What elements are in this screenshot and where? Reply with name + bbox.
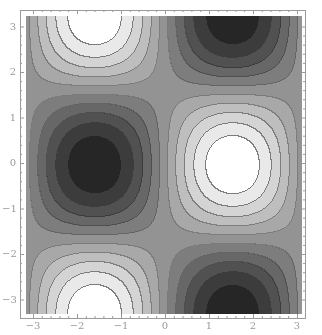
y-tick-label: 2 (2, 67, 16, 77)
y-tick-label: 0 (2, 158, 16, 168)
y-tick-label: 1 (2, 113, 16, 123)
x-tick-label: 1 (206, 321, 212, 331)
x-tick-label: −3 (26, 321, 41, 331)
x-tick-label: −2 (70, 321, 85, 331)
y-tick-label: −3 (2, 295, 16, 305)
y-tick-label: 3 (2, 22, 16, 32)
y-tick-label: −1 (2, 204, 16, 214)
x-tick-label: 0 (162, 321, 168, 331)
x-tick-label: 3 (294, 321, 300, 331)
axis-ticks (0, 0, 322, 335)
x-tick-label: 2 (250, 321, 256, 331)
x-tick-label: −1 (114, 321, 129, 331)
y-tick-label: −2 (2, 249, 16, 259)
